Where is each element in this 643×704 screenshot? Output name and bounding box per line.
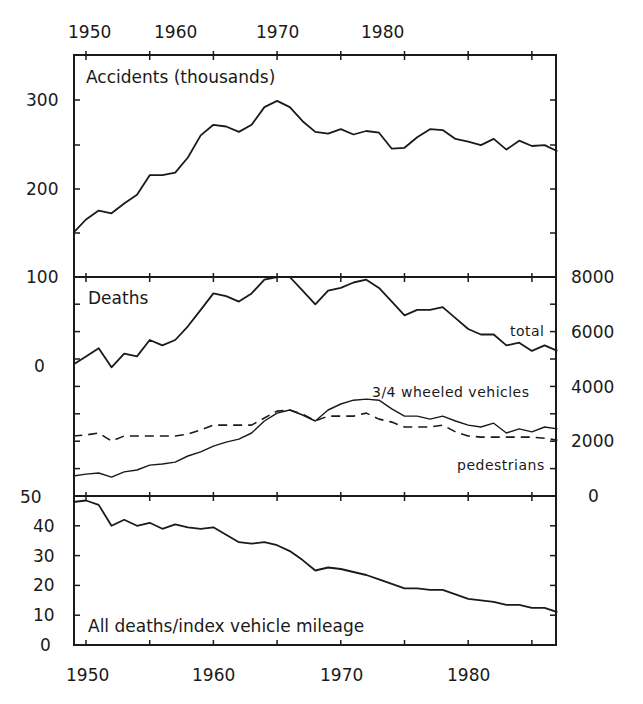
deaths-right-tick-6000: 6000 [571,322,614,342]
rate-title: All deaths/index vehicle mileage [88,616,364,636]
rate-tick-20: 20 [33,575,55,595]
accidents-tick-100: 100 [26,267,58,287]
rate-tick-40: 40 [33,516,55,536]
rate-tick-10: 10 [33,605,55,625]
pedestrians-label: pedestrians [457,457,545,473]
deaths-right-tick-8000: 8000 [571,267,614,287]
bottom-year-1960: 1960 [192,665,235,685]
rate-tick-50: 50 [20,487,42,507]
rate-tick-30: 30 [33,546,55,566]
accidents-tick-200: 200 [26,179,58,199]
panel-accidents: Accidents (thousands) 300 200 100 [26,67,557,287]
bottom-year-1980: 1980 [447,665,490,685]
deaths-left-tick-0: 0 [34,356,45,376]
panel-deaths: Deaths 0 8000 6000 4000 2000 0 total 3/4… [34,267,614,506]
top-year-1970: 1970 [256,22,299,42]
deaths-right-tick-2000: 2000 [571,431,614,451]
top-year-1960: 1960 [154,22,197,42]
bottom-year-1950: 1950 [66,665,109,685]
vehicles-label: 3/4 wheeled vehicles [372,384,530,400]
panel-rate: 50 40 30 20 10 0 All deaths/index vehicl… [20,487,557,655]
top-year-1950: 1950 [68,22,111,42]
bottom-year-1970: 1970 [320,665,363,685]
deaths-title: Deaths [88,288,148,308]
total-label: total [510,323,545,339]
deaths-right-tick-4000: 4000 [571,377,614,397]
rate-tick-0: 0 [40,635,51,655]
accidents-title: Accidents (thousands) [86,67,275,87]
accidents-line [73,101,557,233]
bottom-year-labels: 1950 1960 1970 1980 [66,665,490,685]
accidents-tick-300: 300 [26,90,58,110]
top-year-1980: 1980 [361,22,404,42]
axis-ticks [74,51,556,645]
rate-line [73,501,557,613]
road-accidents-chart: 1950 1960 1970 1980 Accidents (thousands… [0,0,643,704]
deaths-right-tick-0: 0 [588,486,599,506]
top-year-labels: 1950 1960 1970 1980 [68,22,404,42]
